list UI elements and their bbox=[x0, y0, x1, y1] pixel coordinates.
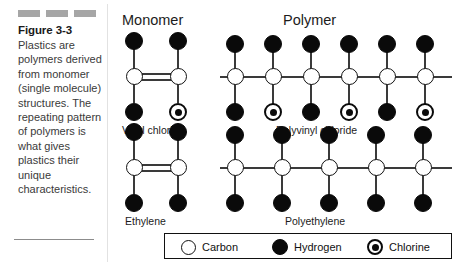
atom-carbon bbox=[126, 159, 143, 176]
atom-hydrogen bbox=[414, 126, 432, 144]
carbon-icon bbox=[181, 240, 196, 255]
atom-hydrogen bbox=[302, 103, 320, 121]
atom-carbon bbox=[274, 159, 291, 176]
atom-hydrogen bbox=[273, 194, 291, 212]
atom-hydrogen bbox=[414, 194, 432, 212]
atom-carbon bbox=[170, 68, 187, 85]
diagram-area: Monomer Polymer Vinyl chloride bbox=[108, 0, 460, 267]
atom-hydrogen bbox=[264, 35, 282, 53]
swatch-block bbox=[18, 10, 40, 17]
atom-hydrogen bbox=[226, 194, 244, 212]
atom-carbon bbox=[126, 68, 143, 85]
atom-carbon bbox=[415, 159, 432, 176]
atom-hydrogen bbox=[169, 32, 187, 50]
atom-carbon bbox=[227, 68, 244, 85]
atom-carbon bbox=[265, 68, 282, 85]
legend-label-chlorine: Chlorine bbox=[389, 241, 430, 253]
atom-chlorine bbox=[416, 103, 434, 121]
atom-carbon bbox=[341, 68, 358, 85]
atom-carbon bbox=[321, 159, 338, 176]
atom-hydrogen bbox=[125, 32, 143, 50]
atom-carbon bbox=[368, 159, 385, 176]
hydrogen-icon bbox=[272, 239, 288, 255]
atom-carbon bbox=[417, 68, 434, 85]
atom-hydrogen bbox=[367, 126, 385, 144]
caption-column: Figure 3-3 Plastics are polymers derived… bbox=[0, 0, 108, 267]
swatch-block bbox=[46, 10, 68, 17]
atom-carbon bbox=[170, 159, 187, 176]
atom-hydrogen bbox=[367, 194, 385, 212]
monomer-column-heading: Monomer bbox=[122, 12, 183, 28]
atom-hydrogen bbox=[340, 35, 358, 53]
swatch-block bbox=[74, 10, 96, 17]
label-ethylene: Ethylene bbox=[125, 215, 166, 227]
label-polyethylene: Polyethylene bbox=[285, 215, 345, 227]
atom-chlorine bbox=[169, 103, 187, 121]
chlorine-icon bbox=[367, 239, 383, 255]
atom-hydrogen bbox=[226, 35, 244, 53]
legend-label-carbon: Carbon bbox=[202, 241, 238, 253]
atom-hydrogen bbox=[302, 35, 320, 53]
atom-hydrogen bbox=[226, 126, 244, 144]
legend-box: Carbon Hydrogen Chlorine bbox=[164, 233, 452, 259]
atom-hydrogen bbox=[320, 126, 338, 144]
atom-hydrogen bbox=[320, 194, 338, 212]
atom-hydrogen bbox=[378, 103, 396, 121]
atom-hydrogen bbox=[125, 123, 143, 141]
atom-carbon bbox=[227, 159, 244, 176]
atom-hydrogen bbox=[169, 194, 187, 212]
atom-chlorine bbox=[340, 103, 358, 121]
figure-caption-text: Plastics are polymers derived from monom… bbox=[18, 38, 102, 196]
atom-hydrogen bbox=[125, 103, 143, 121]
atom-hydrogen bbox=[226, 103, 244, 121]
atom-carbon bbox=[379, 68, 396, 85]
atom-hydrogen bbox=[169, 123, 187, 141]
atom-carbon bbox=[303, 68, 320, 85]
legend-label-hydrogen: Hydrogen bbox=[294, 241, 342, 253]
figure-page: Figure 3-3 Plastics are polymers derived… bbox=[0, 0, 460, 267]
atom-chlorine bbox=[264, 103, 282, 121]
legend-item-chlorine: Chlorine bbox=[367, 234, 430, 260]
caption-divider-rule bbox=[14, 239, 94, 240]
legend-item-carbon: Carbon bbox=[181, 234, 238, 260]
atom-hydrogen bbox=[378, 35, 396, 53]
atom-hydrogen bbox=[125, 194, 143, 212]
legend-item-hydrogen: Hydrogen bbox=[272, 234, 342, 260]
figure-title: Figure 3-3 bbox=[18, 24, 72, 36]
decorative-swatch-row bbox=[18, 10, 96, 17]
atom-hydrogen bbox=[416, 35, 434, 53]
polymer-column-heading: Polymer bbox=[283, 12, 336, 28]
atom-hydrogen bbox=[273, 126, 291, 144]
